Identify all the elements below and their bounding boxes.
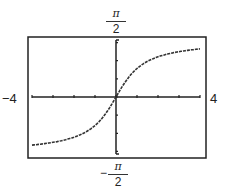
y-min-numerator: π (108, 161, 128, 175)
x-max-label: 4 (210, 92, 217, 105)
y-min-sign: − (100, 166, 107, 180)
x-min-label: −4 (2, 92, 17, 105)
y-min-denominator: 2 (108, 175, 128, 188)
y-max-numerator: π (106, 8, 126, 22)
y-min-label: π 2 (108, 161, 128, 188)
y-max-label: π 2 (106, 8, 126, 35)
y-max-denominator: 2 (106, 22, 126, 35)
